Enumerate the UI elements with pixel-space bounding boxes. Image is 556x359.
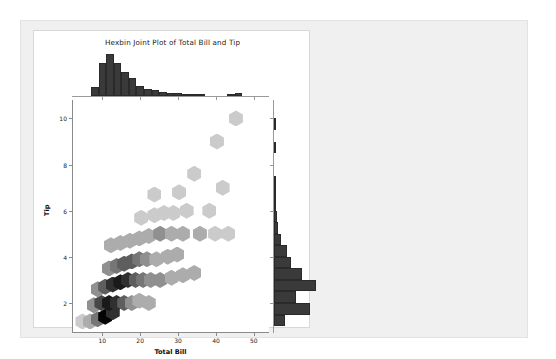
marginal-y-bar bbox=[274, 303, 310, 315]
marginal-y-bar bbox=[274, 291, 296, 303]
hexbin-cell bbox=[221, 226, 235, 242]
marginal-y-bar bbox=[274, 245, 287, 257]
marginal-y-bar bbox=[274, 118, 276, 130]
marginal-x-bar bbox=[235, 93, 243, 96]
x-axis-label: Total Bill bbox=[72, 348, 269, 356]
marginal-x-bar bbox=[159, 92, 167, 97]
marginal-histogram-x bbox=[72, 53, 269, 97]
marginal-y-tick bbox=[270, 211, 273, 212]
hexbin-cell bbox=[180, 203, 194, 219]
marginal-x-bar bbox=[129, 78, 137, 96]
marginal-y-tick bbox=[270, 165, 273, 166]
marginal-y-bar bbox=[274, 142, 276, 154]
hexbin-cell bbox=[229, 110, 243, 126]
hexbin-cell bbox=[202, 203, 216, 219]
marginal-y-tick bbox=[270, 118, 273, 119]
x-tick bbox=[216, 333, 217, 336]
marginal-x-bar bbox=[106, 54, 114, 96]
x-tick bbox=[102, 333, 103, 336]
marginal-x-bar bbox=[144, 89, 152, 97]
marginal-y-bar bbox=[274, 211, 277, 223]
y-tick-label: 6 bbox=[63, 207, 67, 214]
x-tick bbox=[140, 333, 141, 336]
marginal-x-bar bbox=[227, 94, 235, 96]
x-tick bbox=[178, 333, 179, 336]
hexbin-cell bbox=[208, 226, 222, 242]
marginal-x-bar bbox=[136, 86, 144, 97]
marginal-x-bar bbox=[167, 93, 175, 96]
x-tick-label: 30 bbox=[174, 337, 182, 344]
y-tick bbox=[69, 303, 72, 304]
marginal-y-bar bbox=[274, 257, 291, 269]
marginal-x-bar bbox=[91, 87, 99, 96]
hexbin-cell bbox=[187, 166, 201, 182]
y-tick bbox=[69, 118, 72, 119]
y-axis-label: Tip bbox=[43, 205, 51, 216]
marginal-histogram-y bbox=[273, 100, 317, 333]
hexbin-cell bbox=[193, 226, 207, 242]
hexbin-joint-axes[interactable] bbox=[72, 100, 269, 333]
hexbin-cell bbox=[216, 180, 230, 196]
y-tick-label: 4 bbox=[63, 253, 67, 260]
y-tick-label: 2 bbox=[63, 300, 67, 307]
marginal-y-bar bbox=[274, 199, 276, 211]
screenshot-root: Hexbin Joint Plot of Total Bill and Tip … bbox=[0, 0, 556, 359]
hexbin-cell bbox=[147, 187, 161, 203]
marginal-y-bar bbox=[274, 315, 285, 327]
marginal-x-bar bbox=[99, 63, 107, 96]
matplotlib-figure: Hexbin Joint Plot of Total Bill and Tip … bbox=[33, 30, 310, 328]
marginal-y-tick bbox=[270, 257, 273, 258]
marginal-x-bar bbox=[114, 63, 122, 96]
marginal-y-bar bbox=[274, 268, 302, 280]
x-tick-label: 10 bbox=[98, 337, 106, 344]
hexbin-cell bbox=[176, 226, 190, 242]
marginal-y-tick bbox=[270, 303, 273, 304]
marginal-y-bar bbox=[274, 280, 316, 292]
hexbin-cell bbox=[172, 184, 186, 200]
chart-title: Hexbin Joint Plot of Total Bill and Tip bbox=[34, 38, 311, 47]
hexbin-cell bbox=[166, 205, 180, 221]
x-tick bbox=[254, 333, 255, 336]
y-tick-label: 10 bbox=[59, 115, 67, 122]
x-tick-label: 40 bbox=[212, 337, 220, 344]
marginal-x-bar bbox=[121, 72, 129, 96]
y-tick-label: 8 bbox=[63, 161, 67, 168]
y-tick bbox=[69, 165, 72, 166]
marginal-y-bar bbox=[274, 234, 281, 246]
marginal-x-bar bbox=[152, 90, 160, 96]
y-tick bbox=[69, 211, 72, 212]
marginal-x-bar bbox=[174, 93, 182, 96]
marginal-y-bar bbox=[274, 222, 278, 234]
marginal-x-bar bbox=[197, 94, 205, 96]
y-tick bbox=[69, 257, 72, 258]
x-tick-label: 50 bbox=[250, 337, 258, 344]
hexbin-cell bbox=[134, 210, 148, 226]
marginal-x-bar bbox=[189, 94, 197, 96]
x-tick-label: 20 bbox=[136, 337, 144, 344]
marginal-x-bar bbox=[182, 94, 190, 96]
hexbin-cell bbox=[210, 134, 224, 150]
hexbin-layer bbox=[73, 100, 269, 332]
marginal-y-bar bbox=[274, 188, 276, 200]
marginal-y-bar bbox=[274, 176, 276, 188]
